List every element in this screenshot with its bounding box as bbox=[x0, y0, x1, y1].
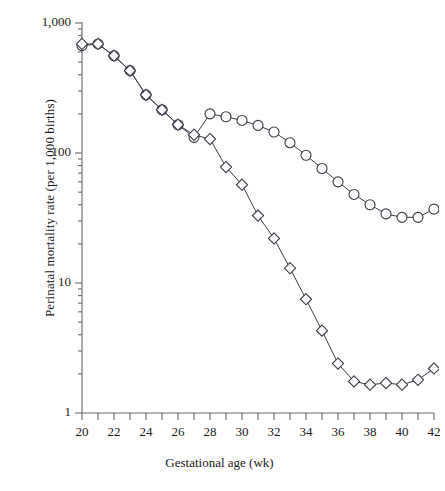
y-axis-title: Perinatal mortality rate (per 1,000 birt… bbox=[42, 63, 58, 353]
x-tick-label: 22 bbox=[99, 424, 129, 440]
x-tick-label: 32 bbox=[259, 424, 289, 440]
x-tick-label: 20 bbox=[67, 424, 97, 440]
x-tick-label: 38 bbox=[355, 424, 385, 440]
x-tick-label: 28 bbox=[195, 424, 225, 440]
x-tick-label: 40 bbox=[387, 424, 417, 440]
x-tick-label: 42 bbox=[419, 424, 445, 440]
x-axis-title: Gestational age (wk) bbox=[0, 455, 439, 471]
x-tick-label: 36 bbox=[323, 424, 353, 440]
x-tick-label: 24 bbox=[131, 424, 161, 440]
data-series bbox=[76, 38, 439, 390]
y-tick-label: 1 bbox=[15, 404, 71, 420]
axis-ticks bbox=[75, 23, 434, 420]
x-tick-label: 34 bbox=[291, 424, 321, 440]
x-tick-label: 26 bbox=[163, 424, 193, 440]
x-tick-label: 30 bbox=[227, 424, 257, 440]
y-tick-label: 1,000 bbox=[15, 14, 71, 30]
